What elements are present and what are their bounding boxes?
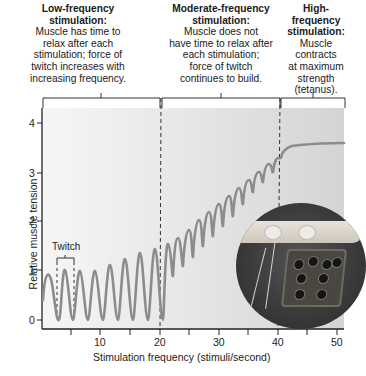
wire [251,248,266,306]
x-ticks [71,329,337,335]
phase-brackets [43,93,345,108]
x-tick-label: 10 [94,336,106,348]
x-axis-title: Stimulation frequency (stimuli/second) [93,351,270,363]
y-tick-label: 4 [29,117,35,129]
x-tick-label: 20 [154,336,166,348]
y-tick-label: 0 [29,314,35,326]
x-tick-label: 50 [331,336,343,348]
x-tick-label: 30 [213,336,225,348]
y-axis-title: Relative muscle tension [27,169,39,299]
wire [265,239,276,308]
stimulator-device-icon [281,249,347,307]
twitch-label: Twitch [52,241,80,252]
x-tick-label: 40 [272,336,284,348]
electrode-icon [298,225,316,240]
electrode-icon [264,225,282,240]
stimulator-photo-inset [236,203,366,329]
